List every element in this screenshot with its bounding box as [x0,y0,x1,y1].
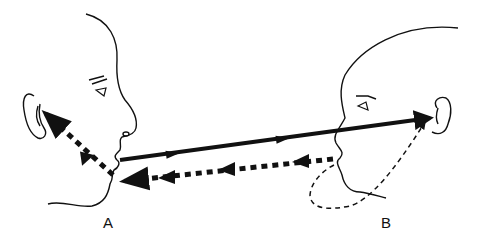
b-self-feedback-loop [310,122,425,208]
label-person-b: B [381,214,391,231]
label-person-a: A [103,214,113,231]
head-b [335,27,458,198]
a-self-feedback-arrow [46,114,113,175]
reply-arrow [125,154,333,184]
head-a [23,14,136,206]
speech-feedback-diagram: A B [0,0,480,242]
diagram-drawing [0,0,480,242]
direct-speech-arrow [120,118,430,160]
